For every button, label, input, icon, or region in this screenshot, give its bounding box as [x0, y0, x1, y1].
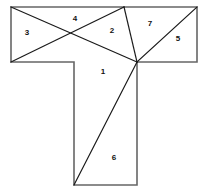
piece-label-4: 4	[73, 14, 78, 23]
piece-label-7: 7	[148, 19, 153, 28]
piece-label-1: 1	[101, 67, 106, 76]
piece-label-3: 3	[25, 28, 30, 37]
tangram-figure: 3427516	[0, 0, 208, 194]
tangram-canvas: 3427516	[0, 0, 208, 194]
piece-label-2: 2	[110, 26, 115, 35]
t-shape-outline	[11, 7, 197, 185]
piece-label-5: 5	[176, 34, 181, 43]
piece-label-6: 6	[112, 153, 117, 162]
